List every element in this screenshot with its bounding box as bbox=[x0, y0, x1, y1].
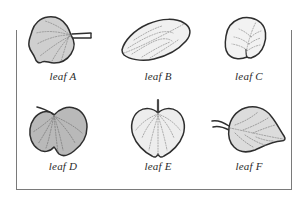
leaf-e-illustration bbox=[112, 100, 204, 162]
leaf-item-d: leaf D bbox=[17, 100, 109, 180]
leaf-f-illustration bbox=[203, 100, 295, 162]
leaf-d-label: leaf D bbox=[17, 160, 109, 172]
leaf-a-illustration bbox=[17, 10, 109, 72]
leaf-item-c: leaf C bbox=[203, 10, 295, 90]
leaf-item-b: leaf B bbox=[112, 10, 204, 90]
leaf-item-e: leaf E bbox=[112, 100, 204, 180]
leaf-f-stem bbox=[212, 121, 229, 130]
leaf-e-label: leaf E bbox=[112, 160, 204, 172]
leaf-figure: leaf A leaf B bbox=[0, 0, 307, 204]
leaf-c-label: leaf C bbox=[203, 70, 295, 82]
leaf-item-f: leaf F bbox=[203, 100, 295, 180]
leaf-b-label: leaf B bbox=[112, 70, 204, 82]
leaf-b-illustration bbox=[112, 10, 204, 72]
frame-bottom-border bbox=[16, 189, 292, 190]
leaf-a-label: leaf A bbox=[17, 70, 109, 82]
leaf-a-stem bbox=[72, 33, 91, 38]
leaf-f-blade bbox=[229, 107, 285, 152]
leaf-item-a: leaf A bbox=[17, 10, 109, 90]
leaf-c-illustration bbox=[203, 10, 295, 72]
leaf-d-illustration bbox=[17, 100, 109, 162]
leaf-f-label: leaf F bbox=[203, 160, 295, 172]
